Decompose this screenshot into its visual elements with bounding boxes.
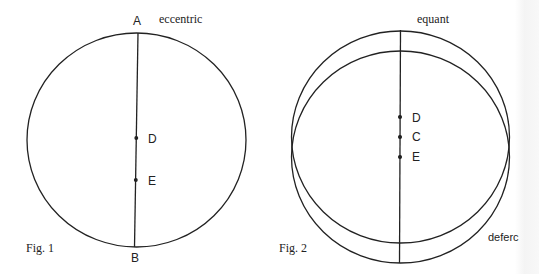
point-E-marker [399, 156, 402, 159]
label-E: E [148, 175, 156, 187]
label-C: C [412, 131, 421, 143]
label-A: A [133, 15, 141, 27]
label-eccentric: eccentric [159, 13, 202, 25]
point-E-marker [135, 179, 138, 182]
figure1 [27, 33, 246, 247]
point-D-marker [399, 116, 402, 119]
label-B: B [131, 252, 139, 264]
label-equant: equant [417, 13, 449, 25]
figure2 [292, 30, 510, 263]
label-D: D [148, 133, 157, 145]
caption-fig1: Fig. 1 [26, 242, 54, 254]
point-C-marker [399, 136, 402, 139]
label-deferent: deferc [488, 231, 519, 243]
diameter-AB [135, 33, 139, 247]
label-E: E [412, 151, 420, 163]
caption-fig2: Fig. 2 [279, 242, 307, 254]
point-D-marker [135, 137, 138, 140]
diagram-canvas [0, 0, 539, 274]
diameter-line [400, 30, 401, 263]
label-D: D [412, 112, 421, 124]
